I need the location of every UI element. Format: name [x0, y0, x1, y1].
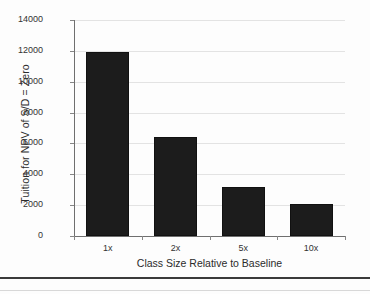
y-tick-label: 0	[0, 230, 43, 240]
y-tick-label: 2000	[0, 199, 43, 209]
page-separator-rule-faint	[0, 290, 370, 291]
x-tick-label: 5x	[213, 243, 273, 253]
x-tick-mark	[345, 236, 346, 240]
y-axis-line	[74, 20, 75, 237]
gridline	[74, 20, 345, 21]
bar	[154, 137, 197, 236]
x-tick-label: 1x	[78, 243, 138, 253]
page-separator-rule	[0, 277, 370, 279]
x-tick-mark	[210, 236, 211, 240]
y-tick-label: 10000	[0, 76, 43, 86]
y-axis-title: Tuition for NPV of S/D = Zero	[19, 24, 31, 244]
y-tick-label: 12000	[0, 45, 43, 55]
x-tick-mark	[142, 236, 143, 240]
bar	[86, 52, 129, 236]
bar-chart-figure: Tuition for NPV of S/D = Zero 0200040006…	[0, 0, 370, 294]
x-tick-label: 2x	[146, 243, 206, 253]
y-tick-label: 8000	[0, 107, 43, 117]
bar	[222, 187, 265, 236]
y-tick-label: 14000	[0, 14, 43, 24]
x-tick-label: 10x	[281, 243, 341, 253]
plot-area: 02000400060008000100001200014000 1x2x5x1…	[74, 20, 345, 236]
bar	[290, 204, 333, 236]
x-tick-mark	[277, 236, 278, 240]
x-tick-mark	[74, 236, 75, 240]
x-axis-title: Class Size Relative to Baseline	[74, 257, 345, 269]
y-tick-label: 4000	[0, 168, 43, 178]
y-tick-label: 6000	[0, 137, 43, 147]
